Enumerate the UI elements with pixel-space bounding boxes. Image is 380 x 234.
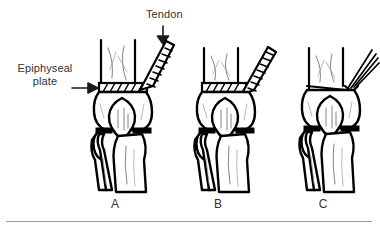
panel-b-anatomy xyxy=(194,47,276,192)
epiphyseal-plate-arrow-icon xyxy=(72,83,98,93)
tendon-b xyxy=(241,47,276,95)
tendon-a xyxy=(140,41,174,90)
panel-c-anatomy xyxy=(299,48,379,192)
tendon-c-frayed xyxy=(345,50,379,92)
bottom-divider xyxy=(6,221,372,222)
panel-a-anatomy xyxy=(91,40,174,192)
panel-letter-c: C xyxy=(313,197,333,211)
epiphyseal-plate-band-b xyxy=(202,83,246,92)
panel-letter-a: A xyxy=(105,197,125,211)
illustration-canvas: Tendon Epiphyseal plate xyxy=(0,0,380,234)
panel-letter-b: B xyxy=(208,197,228,211)
